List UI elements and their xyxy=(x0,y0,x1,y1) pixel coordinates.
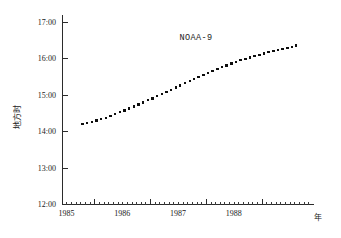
data-point xyxy=(91,121,93,123)
y-axis-tick-label: 15:00 xyxy=(38,91,56,100)
data-point xyxy=(263,52,265,54)
data-point xyxy=(286,47,288,49)
y-axis-tick-label: 14:00 xyxy=(38,127,56,136)
data-point xyxy=(100,118,102,120)
data-point xyxy=(105,117,107,119)
data-point xyxy=(189,80,191,82)
data-point xyxy=(253,55,255,57)
data-point xyxy=(272,50,274,52)
chart-figure: 12:0013:0014:0015:0016:0017:00 198519861… xyxy=(0,0,341,238)
y-axis-title: 地方时 xyxy=(12,105,22,129)
data-point xyxy=(165,91,167,93)
data-point xyxy=(95,119,97,121)
data-point xyxy=(291,46,293,48)
data-point xyxy=(128,107,130,109)
data-point xyxy=(175,86,177,88)
data-series-points xyxy=(81,44,297,125)
data-point xyxy=(193,78,195,80)
data-point xyxy=(151,97,153,99)
data-point xyxy=(277,49,279,51)
data-point xyxy=(123,109,125,111)
x-axis-tick-label: 1987 xyxy=(170,209,186,218)
chart-title: NOAA-9 xyxy=(179,33,212,43)
data-point xyxy=(221,66,223,68)
data-point xyxy=(207,72,209,74)
data-point xyxy=(156,95,158,97)
data-point xyxy=(216,68,218,70)
y-axis-tick-label: 12:00 xyxy=(38,200,56,209)
y-axis-tick-label: 16:00 xyxy=(38,54,56,63)
data-point xyxy=(239,59,241,61)
data-point xyxy=(133,105,135,107)
data-point xyxy=(225,64,227,66)
x-axis-title: 年 xyxy=(314,212,322,222)
data-point xyxy=(109,115,111,117)
y-axis: 12:0013:0014:0015:0016:0017:00 xyxy=(38,15,68,209)
data-point xyxy=(295,44,297,46)
data-point xyxy=(179,84,181,86)
data-point xyxy=(86,122,88,124)
data-point xyxy=(202,74,204,76)
data-point xyxy=(211,70,213,72)
data-point xyxy=(137,103,139,105)
data-point xyxy=(197,76,199,78)
y-axis-tick-label: 17:00 xyxy=(38,18,56,27)
x-axis: 1985198619871988 xyxy=(58,199,313,219)
data-point xyxy=(244,58,246,60)
data-point xyxy=(119,111,121,113)
data-point xyxy=(249,56,251,58)
data-point xyxy=(281,48,283,50)
x-axis-tick-label: 1985 xyxy=(58,209,74,218)
data-point xyxy=(170,89,172,91)
data-point xyxy=(81,123,83,125)
x-axis-tick-label: 1986 xyxy=(114,209,130,218)
data-point xyxy=(230,62,232,64)
data-point xyxy=(267,51,269,53)
data-point xyxy=(258,54,260,56)
data-point xyxy=(235,61,237,63)
data-point xyxy=(161,93,163,95)
y-axis-tick-label: 13:00 xyxy=(38,164,56,173)
data-point xyxy=(147,99,149,101)
chart-canvas: 12:0013:0014:0015:0016:0017:00 198519861… xyxy=(0,0,341,238)
data-point xyxy=(142,101,144,103)
data-point xyxy=(114,113,116,115)
data-point xyxy=(184,82,186,84)
x-axis-tick-label: 1988 xyxy=(226,209,242,218)
